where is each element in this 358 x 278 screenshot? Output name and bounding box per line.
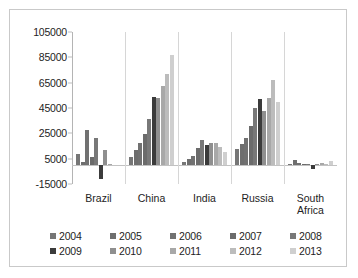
legend-item[interactable]: 2011 [156,245,216,257]
legend-label: 2006 [179,230,202,242]
bar [103,150,107,165]
legend-swatch-icon [170,233,176,239]
category-label: Brazil [72,192,125,204]
bar [99,165,103,179]
legend-swatch-icon [230,248,236,254]
legend-item[interactable]: 2005 [96,230,156,242]
legend-label: 2005 [119,230,142,242]
y-axis-tick-mark [68,108,72,109]
chart-frame: -15000500025000450006500085000105000 Bra… [9,9,347,267]
group-separator [125,32,126,184]
y-axis-tick-label: -15000 [36,178,68,190]
y-axis-tick-label: 45000 [39,102,67,114]
category-label-line: South [284,192,337,204]
legend-item[interactable]: 2013 [276,245,336,257]
category-label-line: Russia [231,192,284,204]
group-separator [178,32,179,184]
group-separator [284,32,285,184]
y-axis-tick-label: 85000 [39,51,67,63]
y-axis-tick-mark [68,158,72,159]
legend-label: 2009 [59,245,82,257]
category-label-line: China [125,192,178,204]
legend-label: 2013 [299,245,322,257]
y-axis-tick-mark [68,184,72,185]
legend-swatch-icon [50,233,56,239]
bar [94,138,98,165]
legend-item[interactable]: 2007 [216,230,276,242]
group-separator [231,32,232,184]
y-axis-tick-label: 65000 [39,77,67,89]
legend-label: 2012 [239,245,262,257]
category-label: SouthAfrica [284,192,337,216]
y-axis-tick-mark [68,133,72,134]
category-label: Russia [231,192,284,204]
legend-label: 2011 [179,245,201,257]
y-axis-tick-mark [68,32,72,33]
bar [276,102,280,165]
bar [170,55,174,165]
y-axis-tick-mark [68,57,72,58]
legend-label: 2008 [299,230,322,242]
legend-item[interactable]: 2012 [216,245,276,257]
y-axis-tick-label: 25000 [39,127,67,139]
legend-label: 2007 [239,230,262,242]
legend-item[interactable]: 2006 [156,230,216,242]
bar [329,161,333,165]
legend-swatch-icon [110,248,116,254]
y-axis-tick-mark [68,82,72,83]
legend-swatch-icon [110,233,116,239]
legend-swatch-icon [290,233,296,239]
y-axis-tick-label: 5000 [44,153,67,165]
legend-item[interactable]: 2010 [96,245,156,257]
bar [311,165,315,169]
legend-swatch-icon [230,233,236,239]
chart-legend: 2004200520062007200820092010201120122013 [36,228,336,258]
legend-row: 20092010201120122013 [36,243,336,258]
legend-item[interactable]: 2008 [276,230,336,242]
legend-swatch-icon [170,248,176,254]
category-label: China [125,192,178,204]
category-label-line: Brazil [72,192,125,204]
y-axis-tick-label: 105000 [33,26,67,38]
plot-area: -15000500025000450006500085000105000 Bra… [72,32,337,184]
legend-swatch-icon [290,248,296,254]
bar [223,152,227,165]
legend-label: 2010 [119,245,142,257]
category-label: India [178,192,231,204]
legend-row: 20042005200620072008 [36,228,336,243]
category-label-line: Africa [284,204,337,216]
legend-swatch-icon [50,248,56,254]
zero-baseline [72,165,337,166]
legend-label: 2004 [59,230,82,242]
category-label-line: India [178,192,231,204]
y-axis-line [72,32,73,184]
legend-item[interactable]: 2009 [36,245,96,257]
legend-item[interactable]: 2004 [36,230,96,242]
bar [108,164,112,165]
